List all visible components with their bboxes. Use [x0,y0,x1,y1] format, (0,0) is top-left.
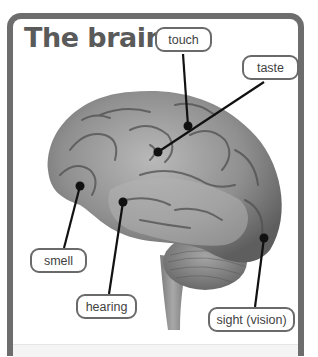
label-taste: taste [242,55,299,80]
label-sight: sight (vision) [208,307,295,332]
touch-dot [184,122,193,131]
sight-dot [260,234,269,243]
smell-dot [76,182,85,191]
label-hearing: hearing [76,294,137,319]
taste-dot [154,148,163,157]
hearing-dot [119,198,128,207]
label-smell: smell [30,248,87,273]
label-touch: touch [155,27,212,52]
